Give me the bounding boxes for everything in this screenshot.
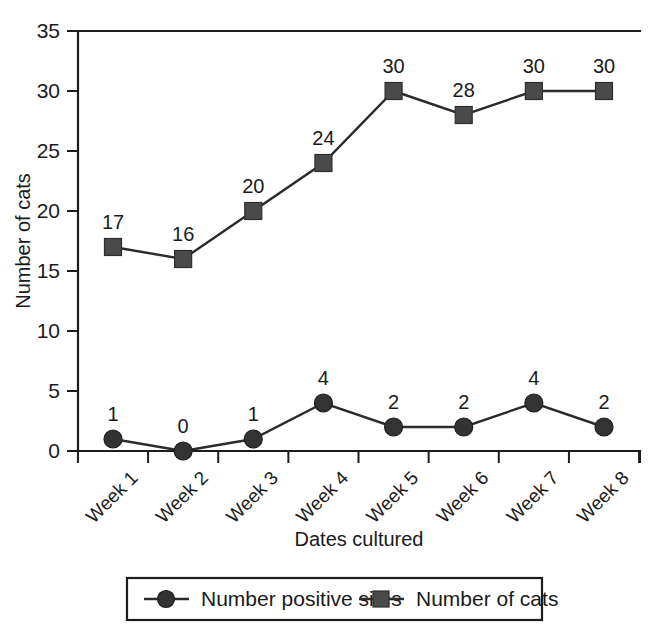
x-tick-label-6: Week 7 (503, 467, 563, 527)
y-tick-label-30: 30 (37, 79, 60, 102)
y-axis-title: Number of cats (12, 173, 34, 309)
data-point-label: 16 (172, 223, 194, 245)
data-point-label: 4 (318, 367, 329, 389)
data-point-marker (245, 203, 262, 220)
x-axis-tick-labels: Week 1Week 2Week 3Week 4Week 5Week 6Week… (82, 467, 633, 527)
data-point-labels: 101422421716202430283030 (102, 55, 615, 437)
x-axis-ticks (78, 451, 639, 463)
data-point-marker (315, 155, 332, 172)
data-point-marker (596, 83, 613, 100)
square-marker-icon (373, 591, 389, 607)
x-tick-label-7: Week 8 (573, 467, 633, 527)
y-tick-label-0: 0 (48, 439, 60, 462)
data-point-label: 4 (528, 367, 539, 389)
x-tick-label-5: Week 6 (432, 467, 492, 527)
data-point-marker (314, 394, 332, 412)
data-point-marker (525, 83, 542, 100)
data-point-label: 28 (453, 79, 475, 101)
y-tick-label-15: 15 (37, 259, 60, 282)
data-point-label: 20 (242, 175, 264, 197)
axis-frame (78, 31, 640, 463)
data-point-marker (244, 430, 262, 448)
y-axis-ticks: 05101520253035 (37, 19, 78, 462)
data-point-marker (385, 418, 403, 436)
chart-figure: 05101520253035 Week 1Week 2Week 3Week 4W… (0, 0, 660, 630)
data-point-label: 30 (593, 55, 615, 77)
data-point-label: 2 (598, 391, 609, 413)
data-point-marker (105, 239, 122, 256)
chart-legend: Number positive sites Number of cats (127, 578, 558, 620)
x-tick-label-0: Week 1 (82, 467, 142, 527)
x-tick-label-1: Week 2 (152, 467, 212, 527)
data-point-marker (525, 394, 543, 412)
data-point-marker (455, 418, 473, 436)
data-point-marker (174, 442, 192, 460)
y-tick-label-5: 5 (48, 379, 60, 402)
data-point-label: 2 (458, 391, 469, 413)
data-point-label: 30 (523, 55, 545, 77)
data-point-marker (385, 83, 402, 100)
data-point-marker (104, 430, 122, 448)
data-point-label: 1 (248, 403, 259, 425)
y-tick-label-35: 35 (37, 19, 60, 42)
circle-marker-icon (158, 591, 175, 608)
data-point-marker (175, 251, 192, 268)
data-point-label: 0 (178, 415, 189, 437)
x-tick-label-3: Week 4 (292, 467, 352, 527)
data-series-group (104, 83, 613, 461)
x-axis-title: Dates cultured (295, 528, 424, 550)
y-tick-label-25: 25 (37, 139, 60, 162)
line-chart: 05101520253035 Week 1Week 2Week 3Week 4W… (0, 0, 660, 630)
data-point-label: 1 (107, 403, 118, 425)
data-point-label: 17 (102, 211, 124, 233)
y-tick-label-10: 10 (37, 319, 60, 342)
data-point-label: 30 (382, 55, 404, 77)
data-point-marker (455, 107, 472, 124)
x-tick-label-2: Week 3 (222, 467, 282, 527)
y-tick-label-20: 20 (37, 199, 60, 222)
data-point-label: 2 (388, 391, 399, 413)
legend-label-number-of-cats: Number of cats (416, 587, 558, 610)
data-point-label: 24 (312, 127, 334, 149)
data-point-marker (595, 418, 613, 436)
x-tick-label-4: Week 5 (362, 467, 422, 527)
